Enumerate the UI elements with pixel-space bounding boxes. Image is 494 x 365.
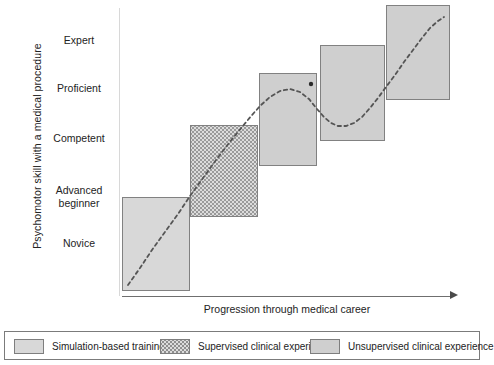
stage-box-4	[320, 45, 385, 141]
stage-box-2	[190, 125, 258, 217]
x-axis-arrow-icon	[450, 291, 458, 299]
y-axis-title: Psychomotor skill with a medical procedu…	[31, 6, 43, 286]
x-axis-line	[122, 296, 452, 297]
x-axis-title: Progression through medical career	[122, 303, 452, 315]
y-tick-label-0: Expert	[40, 34, 118, 47]
legend-label-simulation: Simulation-based training	[52, 341, 165, 352]
y-tick-label-4: Novice	[40, 237, 118, 250]
legend-item-unsupervised: Unsupervised clinical experience	[310, 338, 494, 354]
stage-box-5	[386, 5, 450, 100]
legend-swatch-unsupervised	[310, 339, 340, 354]
legend-swatch-supervised	[160, 339, 190, 354]
y-axis-line	[119, 8, 120, 296]
plot-area: Progression through medical career Exper…	[0, 0, 486, 310]
legend-item-simulation: Simulation-based training	[14, 338, 165, 354]
stage-box-3	[259, 73, 317, 166]
stage-box-1	[122, 197, 190, 291]
legend-swatch-simulation	[14, 339, 44, 354]
legend: Simulation-based training Supervised cli…	[4, 331, 480, 360]
legend-item-supervised: Supervised clinical experience	[160, 338, 333, 354]
y-tick-label-2: Competent	[40, 132, 118, 145]
y-tick-label-3: Advancedbeginner	[40, 184, 118, 210]
y-tick-label-1: Proficient	[40, 82, 118, 95]
legend-label-unsupervised: Unsupervised clinical experience	[348, 341, 494, 352]
